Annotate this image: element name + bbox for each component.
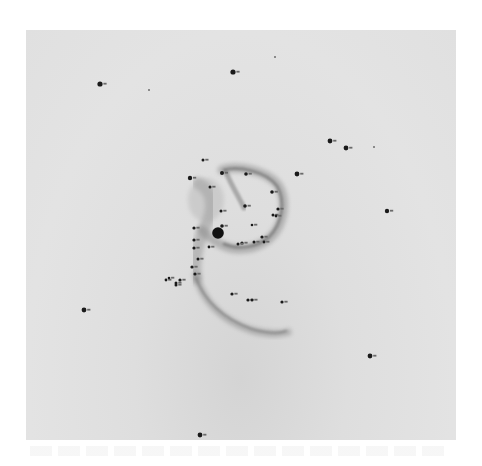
star <box>220 171 224 175</box>
star <box>220 224 224 228</box>
star <box>192 246 195 249</box>
star-label-mark <box>196 227 199 229</box>
star <box>373 146 375 148</box>
star <box>192 226 195 229</box>
star <box>244 172 248 176</box>
star <box>368 354 373 359</box>
star-label-mark <box>254 224 257 226</box>
star-label-mark <box>196 247 199 249</box>
star <box>237 243 240 246</box>
star-label-mark <box>240 243 243 245</box>
sky-field <box>26 30 456 440</box>
star-label-mark <box>256 241 259 243</box>
star-label-mark <box>171 277 174 279</box>
star-label-mark <box>205 159 208 161</box>
star-label-mark <box>275 191 278 193</box>
star <box>197 258 200 261</box>
star <box>178 278 181 281</box>
star <box>168 277 171 280</box>
star-label-mark <box>280 208 283 210</box>
star-label-mark <box>178 284 181 286</box>
star-label-mark <box>211 246 214 248</box>
star <box>328 139 333 144</box>
star <box>82 308 87 313</box>
star <box>230 69 235 74</box>
nebula-diffuse-patch <box>188 178 224 222</box>
star <box>295 172 300 177</box>
star <box>263 241 266 244</box>
star <box>253 241 256 244</box>
star <box>251 299 254 302</box>
star <box>243 204 247 208</box>
star <box>198 433 203 438</box>
star <box>190 265 193 268</box>
star-label-mark <box>278 215 281 217</box>
star <box>165 279 168 282</box>
star <box>251 224 254 227</box>
star <box>193 272 196 275</box>
star-label-mark <box>266 241 269 243</box>
star <box>385 209 389 213</box>
star-label-mark <box>225 225 228 227</box>
star <box>274 56 276 58</box>
star <box>148 89 150 91</box>
star <box>202 159 205 162</box>
nebula-inner-tail <box>226 172 244 208</box>
star-label-mark <box>87 309 90 311</box>
star <box>208 246 211 249</box>
star-label-mark <box>248 205 251 207</box>
star-label-mark <box>390 210 393 212</box>
star <box>220 210 223 213</box>
central-star <box>212 227 224 239</box>
star-label-mark <box>264 236 267 238</box>
star-label-mark <box>234 293 237 295</box>
star <box>260 235 263 238</box>
star-label-mark <box>103 83 106 85</box>
star-label-mark <box>193 177 196 179</box>
star <box>280 300 283 303</box>
star-label-mark <box>225 172 228 174</box>
star-label-mark <box>333 140 336 142</box>
star-label-mark <box>194 266 197 268</box>
caption-ghost <box>30 446 450 456</box>
star-label-mark <box>197 273 200 275</box>
star-label-mark <box>284 301 287 303</box>
star-label-mark <box>254 299 257 301</box>
star <box>270 190 274 194</box>
star <box>192 238 195 241</box>
star-label-mark <box>212 186 215 188</box>
star-label-mark <box>196 239 199 241</box>
star <box>272 214 275 217</box>
star <box>246 298 249 301</box>
star-label-mark <box>178 282 181 284</box>
star <box>275 215 278 218</box>
star-label-mark <box>236 71 239 73</box>
star-label-mark <box>373 355 376 357</box>
star-label-mark <box>200 258 203 260</box>
star <box>188 176 192 180</box>
star <box>230 292 233 295</box>
star <box>344 146 349 151</box>
star <box>209 186 212 189</box>
star <box>175 284 178 287</box>
star-label-mark <box>203 434 206 436</box>
star-label-mark <box>244 242 247 244</box>
star <box>97 81 102 86</box>
star-label-mark <box>249 173 252 175</box>
star-label-mark <box>349 147 352 149</box>
star-label-mark <box>223 210 226 212</box>
star <box>276 207 279 210</box>
star-label-mark <box>182 279 185 281</box>
photographic-plate <box>26 30 456 440</box>
star-label-mark <box>300 173 303 175</box>
